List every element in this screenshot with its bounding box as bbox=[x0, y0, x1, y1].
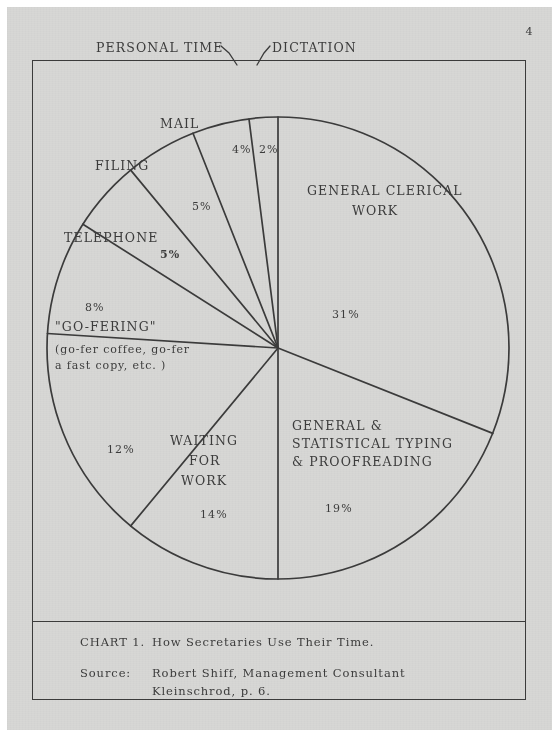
slice-value-filing: 5% bbox=[160, 247, 180, 263]
slice-value-mail: 5% bbox=[192, 199, 212, 215]
slice-label-waiting-line1: WAITING bbox=[170, 432, 238, 450]
slice-label-typing-line3: & PROOFREADING bbox=[292, 453, 433, 471]
slice-label-mail: MAIL bbox=[160, 115, 199, 133]
slice-label-typing-line2: STATISTICAL TYPING bbox=[292, 435, 453, 453]
slice-label-filing: FILING bbox=[95, 157, 149, 175]
slice-value-clerical: 31% bbox=[332, 307, 360, 323]
slice-label-waiting-line3: WORK bbox=[181, 472, 227, 490]
leader-line-dictation bbox=[257, 46, 270, 65]
slice-value-personal-time: 4% bbox=[232, 142, 252, 158]
caption-chart-title: How Secretaries Use Their Time. bbox=[152, 634, 374, 651]
gofering-note-line1: (go-fer coffee, go-fer bbox=[55, 342, 190, 358]
caption-source-line2: Kleinschrod, p. 6. bbox=[152, 683, 271, 700]
slice-label-clerical-line2: WORK bbox=[352, 202, 398, 220]
slice-label-dictation: DICTATION bbox=[272, 39, 357, 57]
slice-value-gofering: 12% bbox=[107, 442, 135, 458]
gofering-note-line2: a fast copy, etc. ) bbox=[55, 358, 166, 374]
slice-label-personal-time: PERSONAL TIME bbox=[96, 39, 224, 57]
scanned-page: 4 bbox=[7, 7, 552, 730]
caption-chart-number: CHART 1. bbox=[80, 634, 145, 651]
slice-label-clerical-line1: GENERAL CLERICAL bbox=[307, 182, 463, 200]
slice-value-waiting: 14% bbox=[200, 507, 228, 523]
slice-label-telephone: TELEPHONE bbox=[64, 229, 158, 247]
slice-value-dictation: 2% bbox=[259, 142, 279, 158]
slice-label-gofering: "GO-FERING" bbox=[55, 318, 157, 336]
slice-label-waiting-line2: FOR bbox=[189, 452, 221, 470]
slice-value-typing: 19% bbox=[325, 501, 353, 517]
slice-value-telephone: 8% bbox=[85, 300, 105, 316]
caption-source-label: Source: bbox=[80, 665, 131, 682]
slice-label-typing-line1: GENERAL & bbox=[292, 417, 383, 435]
caption-source-line1: Robert Shiff, Management Consultant bbox=[152, 665, 405, 682]
